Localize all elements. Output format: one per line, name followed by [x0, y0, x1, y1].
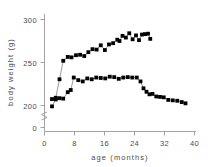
data-point-marker: [66, 55, 70, 59]
data-point-marker: [61, 97, 65, 101]
data-point-marker: [74, 53, 78, 57]
series-lower: [50, 75, 187, 108]
data-point-marker: [135, 76, 139, 80]
data-point-marker: [58, 77, 62, 81]
data-point-marker: [171, 98, 175, 102]
data-point-marker: [126, 75, 130, 79]
data-point-marker: [162, 95, 166, 99]
data-point-marker: [151, 92, 155, 96]
x-tick-label-8: 8: [72, 139, 77, 148]
data-point-marker: [81, 80, 85, 84]
data-point-marker: [154, 95, 158, 99]
data-point-marker: [127, 31, 131, 35]
x-tick-label-16: 16: [100, 139, 109, 148]
data-point-marker: [131, 37, 135, 41]
data-point-marker: [134, 34, 138, 38]
data-point-marker: [78, 53, 82, 57]
data-point-marker: [95, 48, 99, 52]
y-tick-label-250: 250: [23, 59, 37, 68]
data-series-layer: [50, 31, 187, 108]
data-point-marker: [94, 76, 98, 80]
body-weight-vs-age-line-chart: 300 250 200 0 0 8 16 24 32 40 age (month…: [0, 0, 221, 167]
data-point-marker: [175, 99, 179, 103]
data-point-marker: [139, 80, 143, 84]
series-upper: [50, 31, 152, 101]
x-tick-label-24: 24: [130, 139, 139, 148]
x-tick-label-32: 32: [160, 139, 169, 148]
y-tick-label-300: 300: [23, 16, 37, 25]
y-axis-ticks: [41, 20, 45, 128]
data-point-marker: [103, 77, 107, 81]
data-point-marker: [111, 41, 115, 45]
data-point-marker: [91, 47, 95, 51]
data-point-marker: [85, 77, 89, 81]
data-point-marker: [184, 101, 188, 105]
data-point-marker: [99, 43, 103, 47]
data-point-marker: [61, 59, 65, 63]
data-point-marker: [70, 55, 74, 59]
data-point-marker: [90, 77, 94, 81]
data-point-marker: [166, 98, 170, 102]
data-point-marker: [82, 54, 86, 58]
data-point-marker: [146, 32, 150, 36]
y-tick-label-zero: 0: [32, 124, 37, 133]
data-point-marker: [50, 104, 54, 108]
data-point-marker: [107, 43, 111, 47]
y-axis-break-icon: [42, 112, 48, 120]
data-point-marker: [58, 96, 62, 100]
x-axis-ticks: [45, 132, 195, 136]
data-point-marker: [130, 76, 134, 80]
data-point-marker: [117, 77, 121, 81]
data-point-marker: [86, 50, 90, 54]
data-point-marker: [118, 39, 122, 43]
data-point-marker: [121, 34, 125, 38]
data-point-marker: [180, 100, 184, 104]
data-point-marker: [69, 88, 73, 92]
data-point-marker: [103, 48, 107, 52]
data-point-marker: [72, 76, 76, 80]
data-point-marker: [158, 95, 162, 99]
x-tick-label-40: 40: [190, 139, 199, 148]
x-axis-title: age (months): [91, 153, 148, 162]
y-axis-title: body weight (g): [6, 38, 15, 106]
data-point-marker: [142, 86, 146, 90]
x-tick-label-0: 0: [42, 139, 47, 148]
data-point-marker: [112, 75, 116, 79]
series-upper-line: [52, 33, 150, 99]
data-point-marker: [50, 97, 54, 101]
data-point-marker: [124, 36, 128, 40]
data-point-marker: [137, 38, 141, 42]
data-point-marker: [99, 76, 103, 80]
data-point-marker: [148, 37, 152, 41]
data-point-marker: [76, 78, 80, 82]
chart-figure: 300 250 200 0 0 8 16 24 32 40 age (month…: [0, 0, 221, 167]
data-point-marker: [108, 75, 112, 79]
data-point-marker: [54, 98, 58, 102]
data-point-marker: [121, 76, 125, 80]
y-tick-label-200: 200: [23, 102, 37, 111]
